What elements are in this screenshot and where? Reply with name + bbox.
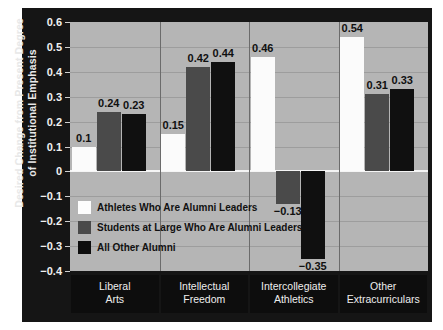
y-axis-tick-label: 0 <box>22 165 62 177</box>
legend-label: Students at Large Who Are Alumni Leaders <box>97 220 302 235</box>
legend-label: All Other Alumni <box>97 240 176 255</box>
category-label: LiberalArts <box>71 275 159 313</box>
bar-value-label: 0.33 <box>382 74 422 86</box>
y-axis-tick-label: 0.4 <box>22 66 62 78</box>
bar-value-label: 0.44 <box>203 47 243 59</box>
legend-swatch <box>78 201 91 214</box>
y-axis-tick-label: 0.6 <box>22 16 62 28</box>
y-axis-tick-label: −0.4 <box>22 265 62 277</box>
category-label-line: Liberal <box>99 280 131 293</box>
category-label: OtherExtracurriculars <box>340 275 428 313</box>
bar <box>161 134 185 171</box>
legend-label: Athletes Who Are Alumni Leaders <box>97 200 257 215</box>
y-axis-tick-label: −0.2 <box>22 215 62 227</box>
bar-value-label: 0.1 <box>64 132 104 144</box>
bar <box>276 171 300 203</box>
legend-swatch <box>78 221 91 234</box>
category-label-line: Freedom <box>183 293 225 306</box>
legend-swatch <box>78 241 91 254</box>
y-axis-tick-label: 0.3 <box>22 91 62 103</box>
category-label: IntellectualFreedom <box>161 275 249 313</box>
y-axis-tick-label: −0.1 <box>22 190 62 202</box>
y-axis-tick-label: 0.2 <box>22 116 62 128</box>
bar-value-label: 0.23 <box>114 99 154 111</box>
category-axis: LiberalArtsIntellectualFreedomIntercolle… <box>70 275 428 313</box>
bar-chart: Desired Change from Present Degree of In… <box>0 0 443 330</box>
bar-value-label: 0.54 <box>332 22 372 34</box>
bar <box>365 94 389 171</box>
bar <box>211 62 235 172</box>
category-label-line: Extracurriculars <box>347 293 420 306</box>
bar <box>251 57 275 172</box>
category-label-line: Intellectual <box>179 280 229 293</box>
category-label: IntercollegiateAthletics <box>250 275 338 313</box>
bar <box>72 147 96 172</box>
y-axis-tick-label: 0.1 <box>22 141 62 153</box>
y-axis-tick-mark <box>65 271 70 272</box>
bar <box>122 114 146 171</box>
y-axis-tick-label: −0.3 <box>22 240 62 252</box>
bar <box>340 37 364 171</box>
bar-value-label: 0.46 <box>243 42 283 54</box>
bar-value-label: −0.13 <box>268 205 308 217</box>
category-label-line: Intercollegiate <box>261 280 326 293</box>
y-axis-tick-label: 0.5 <box>22 41 62 53</box>
category-label-line: Other <box>370 280 396 293</box>
bar-value-label: 0.15 <box>153 119 193 131</box>
bar <box>390 89 414 171</box>
category-label-line: Athletics <box>274 293 314 306</box>
bar-value-label: −0.35 <box>293 260 333 272</box>
category-label-line: Arts <box>105 293 124 306</box>
